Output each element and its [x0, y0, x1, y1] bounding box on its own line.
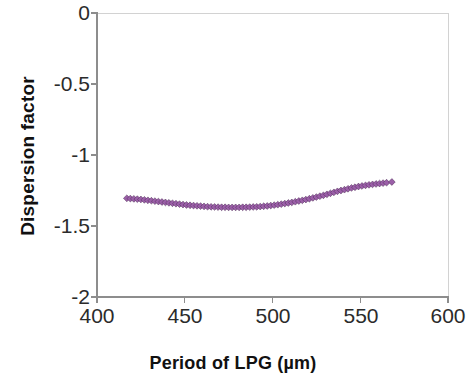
axis-lines	[97, 13, 448, 297]
axis-ticks	[91, 13, 448, 303]
data-series-markers	[123, 179, 395, 211]
plot-canvas	[0, 0, 466, 383]
data-point	[388, 179, 395, 186]
chart-figure: Dispersion factor 0 -0.5 -1 -1.5 -2 400 …	[0, 0, 466, 383]
